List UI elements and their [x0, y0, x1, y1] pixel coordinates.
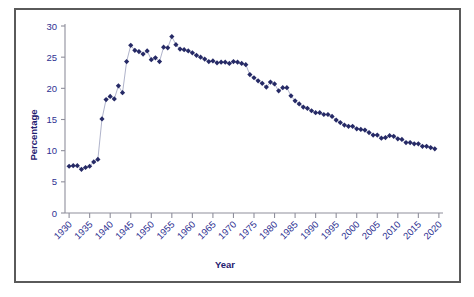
- x-axis-title: Year: [215, 259, 235, 270]
- series-markers: [67, 34, 438, 172]
- y-tick-label: 20: [46, 83, 57, 94]
- x-tick-label: 1930: [51, 219, 74, 242]
- data-point: [95, 157, 100, 162]
- data-point: [124, 59, 129, 64]
- data-point: [428, 145, 433, 150]
- chart-svg: 051015202530 193019351940194519501955196…: [0, 0, 474, 297]
- data-point: [362, 128, 367, 133]
- x-tick-label: 1960: [175, 219, 198, 242]
- data-point: [395, 136, 400, 141]
- data-point: [235, 60, 240, 65]
- x-tick-label: 2015: [401, 219, 424, 242]
- data-point: [350, 124, 355, 129]
- x-tick-label: 1965: [195, 219, 218, 242]
- data-point: [169, 34, 174, 39]
- data-point: [424, 144, 429, 149]
- x-tick-label: 1950: [133, 219, 156, 242]
- data-point: [223, 60, 228, 65]
- x-tick-label: 2020: [421, 219, 444, 242]
- data-point: [161, 45, 166, 50]
- y-axis-ticks: 051015202530: [46, 21, 65, 219]
- x-tick-label: 1940: [92, 219, 115, 242]
- y-axis-title: Percentage: [28, 109, 39, 160]
- x-tick-label: 2000: [339, 219, 362, 242]
- chart-container: 051015202530 193019351940194519501955196…: [0, 0, 474, 297]
- x-tick-label: 1945: [113, 219, 136, 242]
- data-point: [338, 120, 343, 125]
- x-tick-label: 1985: [277, 219, 300, 242]
- data-point: [416, 141, 421, 146]
- data-point: [99, 116, 104, 121]
- x-tick-label: 1975: [236, 219, 259, 242]
- data-point: [182, 47, 187, 52]
- data-point: [391, 134, 396, 139]
- data-point: [112, 96, 117, 101]
- y-tick-label: 0: [52, 208, 57, 219]
- data-point: [408, 140, 413, 145]
- data-point: [206, 59, 211, 64]
- x-axis-ticks: 1930193519401945195019551960196519701975…: [51, 213, 444, 241]
- y-tick-label: 25: [46, 52, 57, 63]
- data-point: [165, 45, 170, 50]
- x-tick-label: 2005: [359, 219, 382, 242]
- data-point: [354, 126, 359, 131]
- y-tick-label: 30: [46, 21, 57, 32]
- y-tick-label: 10: [46, 145, 57, 156]
- y-tick-label: 5: [52, 176, 57, 187]
- data-point: [358, 127, 363, 132]
- data-point: [284, 85, 289, 90]
- series-line: [69, 37, 435, 170]
- x-tick-label: 2010: [380, 219, 403, 242]
- data-point: [239, 61, 244, 66]
- data-point: [136, 49, 141, 54]
- data-point: [116, 83, 121, 88]
- data-point: [67, 164, 72, 169]
- y-tick-label: 15: [46, 114, 57, 125]
- data-point: [366, 130, 371, 135]
- x-tick-label: 1935: [72, 219, 95, 242]
- data-point: [305, 106, 310, 111]
- data-point: [243, 62, 248, 67]
- x-tick-label: 1970: [216, 219, 239, 242]
- data-point: [120, 90, 125, 95]
- x-tick-label: 1955: [154, 219, 177, 242]
- x-tick-label: 1990: [298, 219, 321, 242]
- data-point: [432, 146, 437, 151]
- x-tick-label: 1995: [318, 219, 341, 242]
- data-point: [342, 123, 347, 128]
- x-tick-label: 1980: [257, 219, 280, 242]
